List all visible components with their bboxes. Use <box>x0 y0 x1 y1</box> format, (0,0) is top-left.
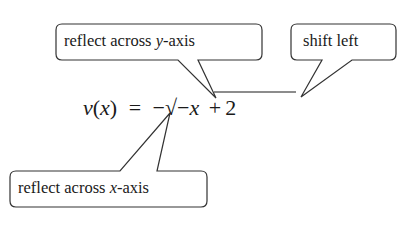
eq-radical: √ <box>165 95 177 120</box>
eq-plus: + <box>209 95 221 120</box>
eq-paren-open: ( <box>93 95 100 120</box>
callout-shift-left-text: shift left <box>303 31 358 51</box>
callout-text-prefix: reflect across <box>18 178 110 197</box>
callout-reflect-x-text: reflect across x-axis <box>18 178 149 198</box>
callout-text-suffix: -axis <box>117 178 149 197</box>
eq-outer-minus: − <box>153 95 165 120</box>
eq-inner-var: x <box>190 95 200 120</box>
equation: v(x) = −√−x +2 <box>83 95 236 121</box>
callout-text: shift left <box>303 31 358 50</box>
eq-func-name: v <box>83 95 93 120</box>
callout-text-prefix: reflect across <box>64 31 156 50</box>
eq-equals: = <box>129 95 141 120</box>
callout-text-var: y <box>156 31 163 50</box>
callout-text-suffix: -axis <box>163 31 195 50</box>
eq-inner-minus: − <box>177 95 189 120</box>
eq-paren-close: ) <box>110 95 117 120</box>
callout-text-var: x <box>110 178 117 197</box>
eq-constant: 2 <box>225 95 236 120</box>
callout-reflect-y-text: reflect across y-axis <box>64 31 195 51</box>
eq-var: x <box>100 95 110 120</box>
